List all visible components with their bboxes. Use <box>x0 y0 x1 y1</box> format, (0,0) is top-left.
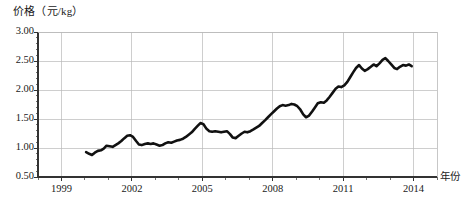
y-tick-label: 0.50 <box>2 170 34 181</box>
grid-lines <box>38 32 437 177</box>
price-series-line <box>86 58 412 155</box>
y-tick-label: 2.50 <box>2 54 34 65</box>
y-tick-label: 2.00 <box>2 83 34 94</box>
axis-major-ticks <box>34 32 414 181</box>
chart-plot-area <box>0 0 469 208</box>
x-tick-label: 1999 <box>41 183 81 194</box>
x-tick-label: 2008 <box>253 183 293 194</box>
y-tick-label: 1.00 <box>2 141 34 152</box>
y-tick-label: 3.00 <box>2 25 34 36</box>
y-tick-label: 1.50 <box>2 112 34 123</box>
x-tick-label: 2011 <box>323 183 363 194</box>
x-tick-label: 2014 <box>394 183 434 194</box>
x-tick-label: 2005 <box>182 183 222 194</box>
axis-frame <box>38 32 437 177</box>
axis-minor-ticks <box>36 38 438 180</box>
price-line-chart-figure: 价格（元/kg） 年份 0.501.001.502.002.503.00 199… <box>0 0 469 208</box>
x-tick-label: 2002 <box>112 183 152 194</box>
